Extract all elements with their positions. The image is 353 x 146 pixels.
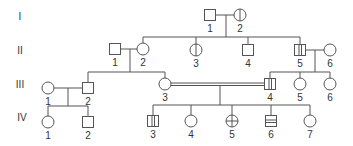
female-circle-icon: [294, 78, 306, 90]
individuals: 121234561234561234567: [42, 9, 336, 141]
female-circle-icon: [304, 115, 316, 127]
individual-number: 2: [140, 57, 146, 68]
individual-number: 5: [297, 58, 303, 69]
individual-ii-1: 1: [110, 44, 121, 69]
male-square-icon: [205, 10, 216, 21]
pedigree-chart: I II III IV: [0, 0, 353, 146]
individual-ii-4: 4: [243, 45, 254, 70]
generation-labels: I II III IV: [16, 11, 27, 123]
individual-number: 5: [229, 129, 235, 140]
individual-ii-6: 6: [324, 44, 336, 69]
individual-iv-1: 1: [42, 116, 54, 141]
individual-number: 1: [207, 23, 213, 34]
individual-number: 4: [245, 58, 251, 69]
individual-iv-7: 7: [304, 115, 316, 140]
individual-iii-2: 2: [83, 83, 94, 108]
individual-number: 6: [268, 129, 274, 140]
female-circle-icon: [159, 78, 171, 90]
individual-iv-4: 4: [185, 115, 197, 140]
individual-iv-6: 6: [266, 116, 277, 141]
individual-iv-2: 2: [83, 117, 94, 142]
individual-number: 1: [112, 57, 118, 68]
female-circle-icon: [185, 115, 197, 127]
female-circle-icon: [42, 116, 54, 128]
individual-ii-3: 3: [190, 44, 202, 69]
male-square-icon: [265, 79, 276, 90]
individual-iii-5: 5: [294, 78, 306, 103]
individual-number: 3: [193, 58, 199, 69]
male-square-icon: [83, 83, 94, 94]
individual-number: 2: [85, 130, 91, 141]
individual-number: 3: [150, 129, 156, 140]
individual-number: 4: [188, 129, 194, 140]
individual-number: 3: [162, 92, 168, 103]
female-circle-icon: [324, 44, 336, 56]
male-square-icon: [148, 116, 159, 127]
generation-label-ii: II: [17, 45, 23, 56]
generation-label-iv: IV: [17, 112, 27, 123]
individual-number: 4: [267, 92, 273, 103]
individual-number: 2: [85, 96, 91, 107]
individual-iv-3: 3: [148, 116, 159, 141]
female-circle-icon: [324, 78, 336, 90]
individual-number: 1: [45, 130, 51, 141]
individual-iii-3: 3: [159, 78, 171, 103]
male-square-icon: [266, 116, 277, 127]
female-circle-icon: [137, 43, 149, 55]
individual-number: 6: [327, 92, 333, 103]
individual-i-1: 1: [205, 10, 216, 35]
male-square-icon: [83, 117, 94, 128]
individual-number: 6: [327, 58, 333, 69]
individual-number: 2: [237, 23, 243, 34]
individual-number: 1: [45, 96, 51, 107]
individual-iv-5: 5: [226, 115, 238, 140]
individual-iii-1: 1: [42, 82, 54, 107]
generation-label-iii: III: [16, 79, 24, 90]
individual-i-2: 2: [234, 9, 246, 34]
individual-ii-2: 2: [137, 43, 149, 68]
individual-iii-6: 6: [324, 78, 336, 103]
male-square-icon: [110, 44, 121, 55]
generation-label-i: I: [19, 11, 22, 22]
male-square-icon: [243, 45, 254, 56]
individual-ii-5: 5: [295, 45, 306, 70]
male-square-icon: [295, 45, 306, 56]
individual-number: 7: [307, 129, 313, 140]
female-circle-icon: [42, 82, 54, 94]
individual-iii-4: 4: [265, 79, 276, 104]
individual-number: 5: [297, 92, 303, 103]
